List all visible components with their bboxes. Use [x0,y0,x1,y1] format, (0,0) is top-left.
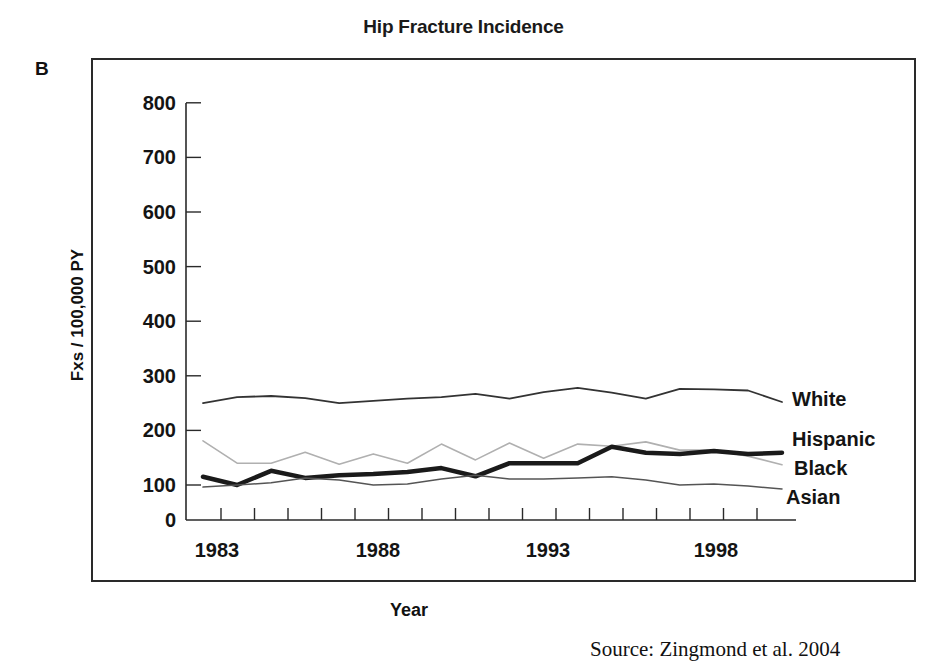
series-labels: WhiteHispanicBlackAsian [786,388,875,508]
y-tick-label: 600 [143,201,176,223]
series-label-black: Black [794,457,848,479]
y-tick-label: 500 [143,256,176,278]
axes: 0100200300400500600700800198319881993199… [143,92,796,561]
y-tick-label: 700 [143,146,176,168]
y-tick-label: 400 [143,310,176,332]
series-lines [203,388,782,489]
x-tick-label: 1998 [694,539,739,561]
series-label-asian: Asian [786,486,840,508]
x-tick-label: 1983 [195,539,240,561]
y-tick-label: 100 [143,474,176,496]
series-label-hispanic: Hispanic [792,428,875,450]
series-label-white: White [792,388,846,410]
y-tick-label: 800 [143,92,176,114]
series-line-asian [203,475,782,489]
series-line-white [203,388,782,403]
series-line-black [203,447,782,485]
x-tick-label: 1993 [526,539,571,561]
y-tick-label: 200 [143,419,176,441]
x-tick-label: 1988 [356,539,401,561]
y-tick-label: 0 [165,509,176,531]
y-tick-label: 300 [143,365,176,387]
